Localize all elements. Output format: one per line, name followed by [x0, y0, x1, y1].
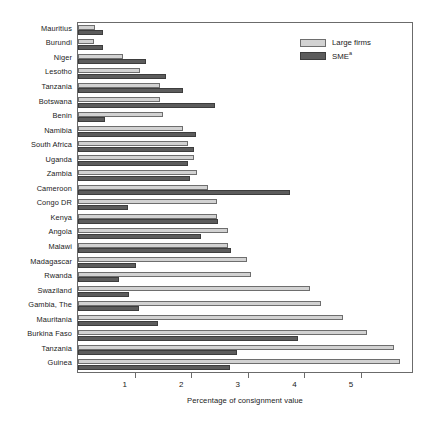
y-axis-label: Tanzania: [0, 345, 72, 353]
y-axis-label: Benin: [0, 112, 72, 120]
bar-sme: [78, 74, 166, 79]
bar-sme: [78, 321, 158, 326]
y-axis-label: Swaziland: [0, 287, 72, 295]
y-axis-label: Rwanda: [0, 272, 72, 280]
bar-large-firms: [78, 257, 247, 262]
legend-swatch-sme: [300, 52, 326, 60]
bars-layer: [78, 23, 412, 372]
legend-label-sme: SMEa: [332, 50, 352, 61]
y-axis-label: Angola: [0, 228, 72, 236]
bar-sme: [78, 190, 290, 195]
bar-large-firms: [78, 359, 400, 364]
x-axis-title: Percentage of consignment value: [77, 396, 413, 405]
bar-large-firms: [78, 272, 251, 277]
y-axis-label: Lesotho: [0, 68, 72, 76]
x-tick: [361, 373, 362, 378]
bar-sme: [78, 336, 298, 341]
bar-sme: [78, 277, 119, 282]
x-tick-label: 5: [341, 380, 361, 389]
y-axis-label: Cameroon: [0, 185, 72, 193]
legend-label-sme-text: SME: [332, 52, 349, 61]
bar-large-firms: [78, 185, 208, 190]
y-axis-label: Burkina Faso: [0, 330, 72, 338]
bar-sme: [78, 350, 237, 355]
x-tick-label: 3: [228, 380, 248, 389]
bar-large-firms: [78, 54, 123, 59]
y-axis-label: Guinea: [0, 359, 72, 367]
x-tick: [304, 373, 305, 378]
bar-sme: [78, 132, 196, 137]
bar-large-firms: [78, 25, 95, 30]
x-tick: [135, 373, 136, 378]
y-axis-label: Burundi: [0, 39, 72, 47]
y-axis-label: Malawi: [0, 243, 72, 251]
y-axis-label: Botswana: [0, 98, 72, 106]
bar-large-firms: [78, 39, 94, 44]
bar-sme: [78, 30, 103, 35]
y-axis-label: Congo DR: [0, 199, 72, 207]
bar-sme: [78, 147, 194, 152]
y-axis-label: Uganda: [0, 156, 72, 164]
bar-sme: [78, 103, 215, 108]
bar-large-firms: [78, 286, 310, 291]
bar-large-firms: [78, 243, 228, 248]
bar-large-firms: [78, 97, 160, 102]
bar-large-firms: [78, 83, 160, 88]
bar-large-firms: [78, 155, 194, 160]
y-axis-category-labels: MauritiusBurundiNigerLesothoTanzaniaBots…: [0, 22, 72, 373]
bar-large-firms: [78, 199, 217, 204]
y-axis-label: South Africa: [0, 141, 72, 149]
x-tick-label: 2: [171, 380, 191, 389]
bar-sme: [78, 117, 105, 122]
x-tick: [248, 373, 249, 378]
bar-sme: [78, 263, 136, 268]
bar-large-firms: [78, 68, 140, 73]
bar-large-firms: [78, 214, 217, 219]
bar-sme: [78, 59, 146, 64]
bar-sme: [78, 176, 190, 181]
legend-label-large-firms: Large firms: [332, 38, 371, 47]
bar-sme: [78, 88, 183, 93]
bar-large-firms: [78, 330, 367, 335]
bar-large-firms: [78, 301, 321, 306]
bar-sme: [78, 292, 129, 297]
bar-large-firms: [78, 315, 343, 320]
y-axis-label: Niger: [0, 54, 72, 62]
bar-sme: [78, 45, 103, 50]
bar-large-firms: [78, 228, 228, 233]
y-axis-label: Tanzania: [0, 83, 72, 91]
bar-sme: [78, 234, 201, 239]
chart-figure: MauritiusBurundiNigerLesothoTanzaniaBots…: [0, 0, 433, 431]
bar-large-firms: [78, 170, 197, 175]
bar-large-firms: [78, 112, 163, 117]
legend-label-sme-footnote: a: [349, 50, 352, 56]
bar-sme: [78, 219, 218, 224]
bar-sme: [78, 248, 231, 253]
bar-large-firms: [78, 345, 394, 350]
legend-item-sme: SMEa: [300, 49, 405, 62]
bar-sme: [78, 205, 128, 210]
x-tick-label: 4: [284, 380, 304, 389]
y-axis-label: Mauritius: [0, 25, 72, 33]
chart-legend: Large firms SMEa: [300, 36, 405, 62]
x-tick-label: 1: [115, 380, 135, 389]
y-axis-label: Mauritania: [0, 316, 72, 324]
x-tick: [191, 373, 192, 378]
y-axis-label: Kenya: [0, 214, 72, 222]
y-axis-label: Gambia, The: [0, 301, 72, 309]
bar-large-firms: [78, 126, 183, 131]
legend-item-large-firms: Large firms: [300, 36, 405, 49]
legend-swatch-large-firms: [300, 39, 326, 47]
bar-sme: [78, 161, 188, 166]
y-axis-label: Madagascar: [0, 258, 72, 266]
bar-large-firms: [78, 141, 188, 146]
y-axis-label: Zambia: [0, 170, 72, 178]
bar-sme: [78, 306, 139, 311]
bar-sme: [78, 365, 230, 370]
y-axis-label: Namibia: [0, 127, 72, 135]
